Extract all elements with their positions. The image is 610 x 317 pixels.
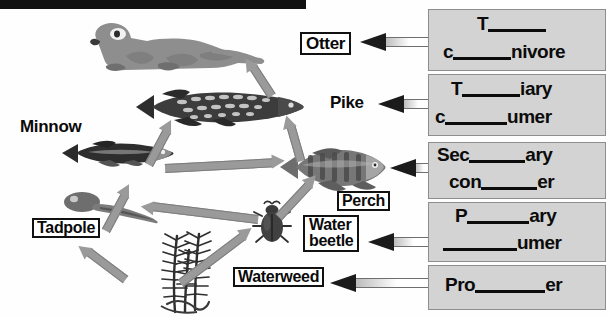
answer-box-tertiary-consumer[interactable]: Tiary cumer bbox=[428, 74, 606, 136]
answer-box-producer[interactable]: Proer bbox=[428, 265, 606, 310]
label-pike[interactable]: Pike bbox=[330, 93, 364, 113]
label-water-beetle[interactable]: Water beetle bbox=[303, 215, 359, 252]
answer-box-secondary-consumer[interactable]: Secary coner bbox=[428, 142, 606, 199]
answer-line-2: cnivore bbox=[443, 41, 565, 63]
answer-line-2: coner bbox=[449, 171, 554, 193]
answer-box-top-carnivore[interactable]: T cnivore bbox=[428, 9, 606, 71]
answer-line-1: Proer bbox=[445, 274, 562, 296]
answer-line-1: T bbox=[477, 13, 546, 35]
label-perch[interactable]: Perch bbox=[337, 191, 390, 211]
worksheet-canvas: Otter Pike Minnow Perch Tadpole Water be… bbox=[0, 0, 610, 317]
pointer-arrow-waterweed bbox=[330, 274, 432, 292]
arrow-minnow-to-perch bbox=[165, 157, 285, 172]
pointer-arrow-pike bbox=[378, 95, 432, 113]
label-tadpole[interactable]: Tadpole bbox=[32, 218, 100, 238]
answer-box-primary-consumer[interactable]: Pary umer bbox=[428, 202, 606, 262]
answer-line-2: cumer bbox=[435, 106, 552, 128]
answer-line-1: Pary bbox=[455, 205, 556, 227]
arrow-waterweed-to-tadpole bbox=[76, 242, 128, 284]
answer-line-1: Secary bbox=[437, 144, 552, 166]
pointer-arrow-perch bbox=[390, 159, 432, 177]
label-otter[interactable]: Otter bbox=[300, 32, 351, 55]
header-black-bar bbox=[0, 0, 306, 9]
pointer-arrow-otter bbox=[360, 33, 430, 51]
label-minnow[interactable]: Minnow bbox=[20, 117, 81, 137]
answer-line-1: Tiary bbox=[451, 78, 552, 100]
pointer-arrow-water-beetle bbox=[368, 233, 432, 251]
answer-line-2: umer bbox=[443, 232, 561, 254]
label-waterweed[interactable]: Waterweed bbox=[233, 267, 324, 287]
otter-illustration bbox=[62, 14, 267, 80]
